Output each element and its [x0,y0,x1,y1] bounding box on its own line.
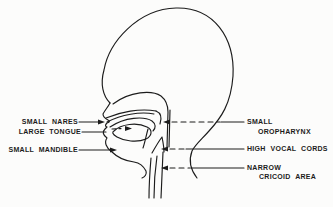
label-small-oropharynx-line2: OROPHARYNX [258,128,311,135]
label-small-nares: SMALL NARES [0,118,78,125]
trachea [149,152,163,198]
label-narrow-cricoid-line2: CRICOID AREA [259,173,316,180]
label-small-mandible: SMALL MANDIBLE [0,146,78,153]
label-small-oropharynx-line1: SMALL [247,118,273,125]
pharynx-wall-inner [169,110,170,147]
leader-small-oropharynx [163,120,244,125]
leader-narrow-cricoid [161,166,244,171]
leader-high-vocal-cords [161,147,244,152]
label-high-vocal-cords: HIGH VOCAL CORDS [247,145,328,152]
epiglottis [152,137,164,153]
label-narrow-cricoid-line1: NARROW [247,164,281,171]
nasal-passage [106,110,156,122]
anatomy-diagram: SMALL NARES LARGE TONGUE SMALL MANDIBLE … [0,0,333,207]
leader-small-nares [79,120,105,125]
soft-palate [156,111,161,124]
label-large-tongue: LARGE TONGUE [0,128,81,135]
leader-small-mandible [79,148,117,153]
cranium-outline [102,8,233,178]
